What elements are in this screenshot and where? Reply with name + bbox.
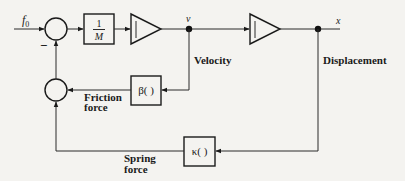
friction-feedback-line (162, 29, 189, 90)
displacement-label: Displacement (323, 54, 387, 66)
input-label: f0 (22, 13, 29, 29)
velocity-symbol: v (186, 13, 191, 24)
velocity-label: Velocity (194, 54, 232, 66)
gain-numerator: 1 (97, 18, 102, 29)
integrator-2 (250, 14, 280, 44)
spring-force-line (56, 102, 184, 151)
summing-junction-2 (45, 79, 67, 101)
spring-force-label-2: force (124, 163, 148, 175)
displacement-symbol: x (335, 15, 341, 26)
integrator-1 (131, 14, 161, 44)
spring-function: κ( ) (192, 145, 208, 158)
block-diagram: f0 − 1 M v Velocity x Displacement β( ) … (0, 0, 405, 181)
friction-function: β( ) (138, 84, 154, 97)
gain-denominator: M (94, 31, 104, 42)
friction-force-label-2: force (84, 101, 108, 113)
summing-junction-1 (45, 18, 67, 40)
spring-feedback-line (216, 29, 318, 151)
minus-sign: − (40, 38, 47, 53)
